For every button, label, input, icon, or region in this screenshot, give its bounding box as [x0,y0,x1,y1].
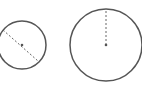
large-circle-center-dot [105,44,108,47]
large-circle-group [70,9,142,81]
circles-diagram [0,0,142,88]
small-circle-center-dot [21,44,24,47]
diameter-line [3,30,38,61]
small-circle-group [0,21,46,69]
